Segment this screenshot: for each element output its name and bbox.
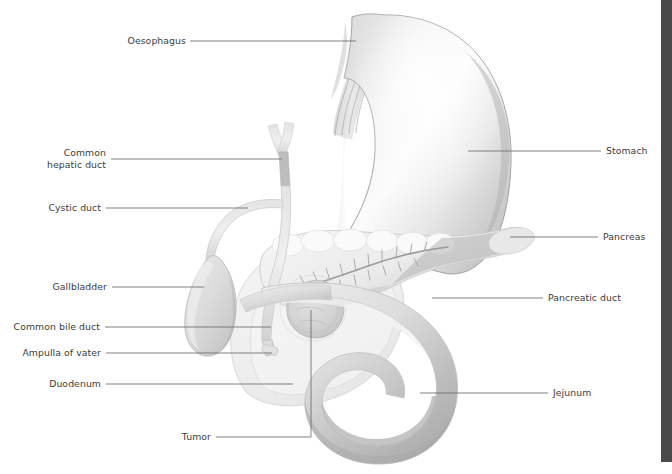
label-gallbladder: Gallbladder: [20, 281, 107, 293]
gallbladder-shape: [185, 256, 236, 357]
label-common-hepatic-duct-line1: Common: [20, 147, 106, 159]
label-cystic-duct: Cystic duct: [20, 202, 101, 214]
label-pancreas: Pancreas: [603, 231, 669, 243]
label-tumor: Tumor: [140, 431, 211, 443]
diagram-canvas: Oesophagus Common hepatic duct Cystic du…: [0, 0, 672, 474]
label-common-hepatic-duct-line2: hepatic duct: [20, 159, 106, 171]
label-common-bile-duct: Common bile duct: [6, 321, 100, 333]
label-duodenum: Duodenum: [20, 378, 101, 390]
right-edge-strip: [661, 0, 672, 462]
label-oesophagus: Oesophagus: [60, 35, 186, 47]
anatomy-illustration: [0, 0, 672, 474]
label-ampulla-of-vater: Ampulla of vater: [6, 347, 101, 359]
label-pancreatic-duct: Pancreatic duct: [548, 292, 648, 304]
label-jejunum: Jejunum: [553, 387, 623, 399]
